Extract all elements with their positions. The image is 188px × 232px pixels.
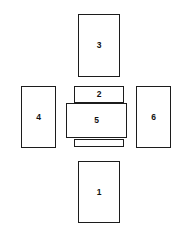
face-label-2: 2 — [97, 90, 102, 99]
face-label-4: 4 — [36, 113, 41, 122]
net-face-6: 6 — [136, 86, 171, 148]
net-face-3: 3 — [78, 14, 120, 77]
net-face-4: 4 — [21, 86, 56, 148]
box-net-diagram: 324561 — [0, 0, 188, 232]
face-label-5: 5 — [94, 116, 99, 125]
net-face-1: 1 — [78, 161, 120, 223]
net-face-2: 2 — [74, 86, 124, 103]
face-label-6: 6 — [151, 113, 156, 122]
net-face-5: 5 — [66, 103, 127, 138]
face-label-1: 1 — [97, 188, 102, 197]
net-face-lower-center-flap — [74, 139, 124, 147]
face-label-3: 3 — [97, 41, 102, 50]
